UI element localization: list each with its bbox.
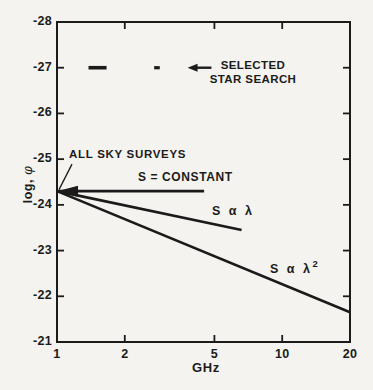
x-tick-label-1: 1 [40,347,74,361]
annotation-all-sky-surveys: ALL SKY SURVEYS [69,148,186,160]
x-axis-title: GHz [176,360,236,375]
x-tick-label-2: 2 [108,347,142,361]
annotation-selected-star-search: SELECTED STAR SEARCH [203,59,303,86]
y-tick-label--26: -26 [14,105,52,119]
selected-star-search-line2: STAR SEARCH [203,73,303,87]
all-sky-pointer-line [59,164,72,190]
y-tick-label--21: -21 [14,334,52,348]
series-line-2 [57,191,350,312]
series-label-s-constant: S = CONSTANT [138,170,233,184]
y-tick-label--28: -28 [14,14,52,28]
series-label-s-lambda-squared: S α λ2 [270,259,318,276]
plot-canvas [0,0,373,390]
y-tick-label--24: -24 [14,197,52,211]
y-tick-label--22: -22 [14,288,52,302]
series-label-s-lambda-squared-exponent: 2 [312,258,317,269]
y-tick-label--25: -25 [14,151,52,165]
figure-root: SELECTED STAR SEARCH ALL SKY SURVEYS S =… [0,0,373,390]
y-tick-label--23: -23 [14,243,52,257]
selected-star-search-line1: SELECTED [203,59,303,73]
y-axis-title-phi: φ [20,166,35,175]
x-tick-label-10: 10 [265,347,299,361]
series-label-s-lambda: S α λ [212,204,254,218]
series-label-s-lambda-squared-base: S α λ [270,262,312,276]
x-tick-label-20: 20 [333,347,367,361]
left-arrow-icon [188,64,198,72]
y-tick-label--27: -27 [14,60,52,74]
x-tick-label-5: 5 [197,347,231,361]
